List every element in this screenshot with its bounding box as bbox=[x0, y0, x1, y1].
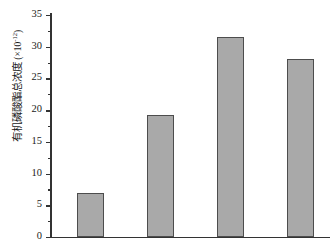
y-tick-mark bbox=[46, 142, 51, 143]
y-minor-tick-mark bbox=[48, 126, 51, 127]
plot-area: 05101520253035 bbox=[51, 15, 330, 237]
y-tick-label: 0 bbox=[37, 230, 42, 241]
y-axis-title: 有机磷酸酯总浓度 (×10-12) bbox=[9, 11, 25, 161]
y-tick-mark bbox=[46, 47, 51, 48]
y-tick-mark bbox=[46, 174, 51, 175]
y-minor-tick-mark bbox=[48, 158, 51, 159]
y-axis-unit: (×10-12) bbox=[13, 30, 23, 62]
y-axis-title-text: 有机磷酸酯总浓度 bbox=[11, 62, 23, 142]
y-tick-label: 25 bbox=[32, 71, 43, 82]
bar-2 bbox=[147, 115, 174, 237]
bar-chart: 有机磷酸酯总浓度 (×10-12) 05101520253035 bbox=[0, 0, 336, 245]
y-tick-mark bbox=[46, 237, 51, 238]
y-tick-label: 20 bbox=[32, 103, 43, 114]
y-tick-mark bbox=[46, 205, 51, 206]
y-tick-label: 35 bbox=[32, 8, 43, 19]
y-tick-mark bbox=[46, 78, 51, 79]
y-axis-unit-suffix: ) bbox=[13, 30, 23, 33]
y-minor-tick-mark bbox=[48, 31, 51, 32]
y-tick-label: 30 bbox=[32, 40, 43, 51]
y-tick-label: 5 bbox=[37, 198, 42, 209]
y-axis-unit-prefix: (×10 bbox=[13, 42, 23, 60]
y-minor-tick-mark bbox=[48, 94, 51, 95]
bar-1 bbox=[77, 193, 104, 237]
y-minor-tick-mark bbox=[48, 221, 51, 222]
y-tick-label: 15 bbox=[32, 135, 43, 146]
y-tick-label: 10 bbox=[32, 167, 43, 178]
y-tick-mark bbox=[46, 15, 51, 16]
y-minor-tick-mark bbox=[48, 189, 51, 190]
bar-3 bbox=[217, 37, 244, 237]
y-axis-unit-exponent: -12 bbox=[11, 33, 18, 42]
bar-4 bbox=[287, 59, 314, 237]
y-tick-mark bbox=[46, 110, 51, 111]
y-minor-tick-mark bbox=[48, 63, 51, 64]
